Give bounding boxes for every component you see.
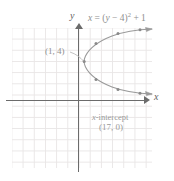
equation-label: x = (y − 4)2 + 1 bbox=[88, 12, 146, 24]
curve-arrow-head-lower bbox=[146, 92, 153, 96]
x-intercept-caption-text: -intercept bbox=[96, 112, 129, 122]
vertex-leader-line bbox=[70, 52, 84, 61]
vertex-point-label: (1, 4) bbox=[45, 47, 65, 56]
equation-plus: + bbox=[131, 13, 141, 23]
x-intercept-caption: x-intercept bbox=[92, 113, 128, 122]
plot-point-upper-1 bbox=[95, 42, 98, 45]
parabola-graph-figure: y x x = (y − 4)2 + 1 (1, 4) x-intercept … bbox=[0, 0, 174, 181]
plot-point-lower-1 bbox=[95, 78, 98, 81]
plot-point-lower-3 bbox=[139, 92, 142, 95]
equation-equals: = bbox=[92, 13, 102, 23]
parabola-curve-layer bbox=[0, 0, 174, 181]
plot-point-upper-3 bbox=[139, 28, 142, 31]
plot-point-upper-2 bbox=[117, 32, 120, 35]
curve-arrow-head-upper bbox=[146, 28, 153, 32]
equation-minus: − bbox=[110, 13, 120, 23]
x-intercept-point-label: (17, 0) bbox=[99, 123, 123, 132]
curve-plotted-points bbox=[83, 28, 142, 94]
x-axis-label: x bbox=[154, 92, 158, 103]
equation-constant: 1 bbox=[141, 13, 146, 23]
plot-point-lower-2 bbox=[117, 88, 120, 91]
y-axis-label: y bbox=[70, 11, 74, 22]
parabola-curve-path bbox=[84, 29, 152, 94]
